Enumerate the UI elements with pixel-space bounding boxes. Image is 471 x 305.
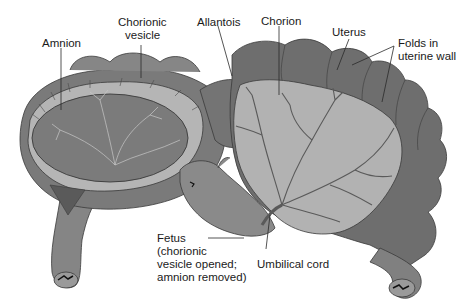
label-uterus: Uterus bbox=[332, 26, 366, 39]
label-fetus-line4: amnion removed) bbox=[157, 271, 246, 284]
label-allantois: Allantois bbox=[197, 16, 240, 29]
amnion bbox=[32, 94, 188, 182]
left-horn-opening bbox=[54, 272, 78, 288]
label-folds-line1: Folds in bbox=[398, 37, 438, 50]
label-fetus-line2: (chorionic bbox=[157, 245, 207, 258]
label-fetus-line3: vesicle opened; bbox=[157, 258, 237, 271]
label-chorion: Chorion bbox=[261, 15, 301, 28]
label-umbilical-cord: Umbilical cord bbox=[257, 258, 329, 271]
label-chorionic-vesicle-line2: vesicle bbox=[125, 29, 160, 42]
label-fetus-line1: Fetus bbox=[157, 232, 186, 245]
label-folds-line2: uterine wall bbox=[398, 50, 456, 63]
label-amnion: Amnion bbox=[42, 37, 81, 50]
label-chorionic-vesicle-line1: Chorionic bbox=[118, 16, 167, 29]
